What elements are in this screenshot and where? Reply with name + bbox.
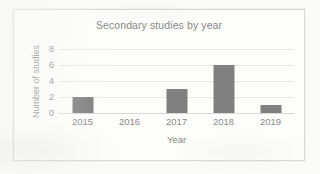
x-axis-tick-label: 2017	[153, 116, 200, 127]
bar-series	[59, 49, 294, 113]
y-axis-tick-label: 2	[49, 92, 54, 102]
x-axis-tick-label: 2018	[200, 116, 247, 127]
bar-slot	[200, 49, 247, 113]
y-axis-title: Number of studies	[31, 49, 41, 113]
x-axis-tick-label: 2016	[106, 116, 153, 127]
bar-2017	[166, 89, 187, 113]
chart-frame: Secondary studies by year Number of stud…	[13, 9, 305, 161]
y-axis-tick-label: 4	[49, 76, 54, 86]
plot-area: 86420	[59, 49, 294, 113]
gridline-0: 0	[59, 113, 294, 114]
bar-2018	[213, 65, 234, 113]
bar-2019	[260, 105, 281, 113]
x-axis-tick-label: 2015	[59, 116, 106, 127]
x-axis-title: Year	[59, 134, 294, 145]
x-axis-tick-label: 2019	[247, 116, 294, 127]
bar-slot	[106, 49, 153, 113]
bar-slot	[153, 49, 200, 113]
x-axis-tick-labels: 20152016201720182019	[59, 116, 294, 127]
bar-2015	[72, 97, 93, 113]
chart-title: Secondary studies by year	[14, 19, 304, 31]
bar-slot	[247, 49, 294, 113]
y-axis-tick-label: 6	[49, 60, 54, 70]
bar-slot	[59, 49, 106, 113]
y-axis-tick-label: 8	[49, 44, 54, 54]
y-axis-tick-label: 0	[49, 108, 54, 118]
